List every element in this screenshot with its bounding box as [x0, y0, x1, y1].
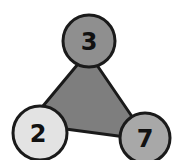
- node-bottom-right: 7: [120, 113, 170, 160]
- fact-family-triangle: 3 2 7: [0, 0, 174, 160]
- node-bottom-left: 2: [13, 106, 67, 160]
- node-top-value: 3: [81, 28, 98, 56]
- node-bottom-right-value: 7: [137, 125, 154, 153]
- node-bottom-left-value: 2: [30, 120, 47, 148]
- node-top: 3: [63, 15, 115, 67]
